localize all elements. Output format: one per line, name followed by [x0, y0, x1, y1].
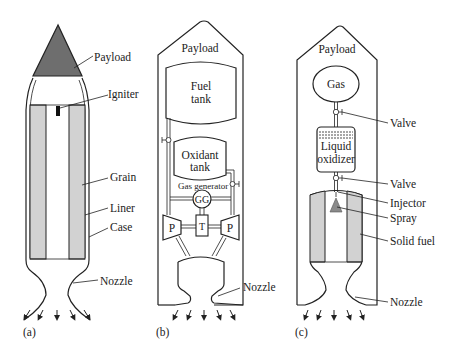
- label-oxidant-tank-1: Oxidant: [181, 149, 219, 161]
- label-injector: Injector: [390, 197, 426, 210]
- valve-top-icon: [333, 109, 342, 115]
- caption-a: (a): [23, 326, 36, 339]
- solid-fuel-left: [310, 191, 325, 262]
- label-payload-a: Payload: [94, 51, 131, 64]
- label-liquid-oxidizer-1: Liquid: [321, 140, 352, 153]
- label-nozzle-a: Nozzle: [100, 275, 133, 287]
- valve-oxidant-icon: [230, 181, 239, 187]
- igniter: [56, 106, 60, 116]
- label-case: Case: [110, 221, 132, 233]
- label-igniter: Igniter: [108, 88, 139, 101]
- label-payload-b: Payload: [181, 42, 218, 55]
- label-oxidant-tank-2: tank: [190, 161, 210, 173]
- spray-cone: [330, 198, 342, 212]
- label-pump-right: P: [227, 222, 233, 234]
- label-turbine: T: [199, 221, 205, 232]
- label-liner: Liner: [110, 202, 135, 214]
- label-fuel-tank-2: tank: [191, 93, 211, 105]
- rocket-propulsion-diagram: Payload Igniter Grain Liner Case Nozzle …: [0, 0, 451, 345]
- label-nozzle-b: Nozzle: [243, 281, 276, 293]
- grain-right: [69, 105, 85, 259]
- grain-left: [30, 105, 46, 259]
- label-pump-left: P: [169, 222, 175, 234]
- fuel-pipe: [167, 118, 170, 215]
- caption-b: (b): [156, 326, 170, 339]
- exhaust-arrows-b: [174, 310, 234, 318]
- label-liquid-oxidizer-2: oxidizer: [317, 153, 355, 165]
- label-spray: Spray: [390, 212, 417, 225]
- exhaust-arrows-c: [305, 310, 363, 318]
- solid-fuel-right: [347, 191, 362, 262]
- payload-cone: [33, 25, 82, 76]
- label-valve-top: Valve: [390, 117, 416, 129]
- label-fuel-tank-1: Fuel: [191, 80, 211, 92]
- valve-bottom-icon: [333, 175, 342, 181]
- nozzle-c: [297, 262, 326, 305]
- panel-c-hybrid-rocket: Payload Gas Valve Liquid oxidizer Valve: [295, 26, 435, 339]
- combustion-chamber: [178, 257, 243, 305]
- panel-a-solid-rocket: Payload Igniter Grain Liner Case Nozzle …: [23, 25, 139, 339]
- label-valve-bottom: Valve: [390, 178, 416, 190]
- label-nozzle-c: Nozzle: [390, 296, 423, 308]
- oxidant-pipe: [226, 170, 234, 215]
- panel-b-liquid-rocket: Payload Fuel tank Oxidant tank Gas gener…: [156, 21, 276, 339]
- label-payload-c: Payload: [318, 43, 355, 56]
- label-gg: GG: [195, 194, 209, 205]
- label-gas: Gas: [327, 78, 345, 90]
- label-grain: Grain: [110, 171, 136, 183]
- label-solid-fuel: Solid fuel: [390, 235, 435, 247]
- valve-fuel-icon: [162, 137, 171, 143]
- caption-c: (c): [295, 326, 308, 339]
